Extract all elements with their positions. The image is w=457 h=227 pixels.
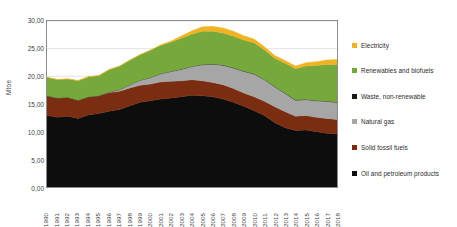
plot-area	[46, 20, 338, 188]
legend-item-label: Waste, non-renewable	[361, 93, 426, 100]
x-axis-tick-label: 1993	[73, 213, 80, 227]
x-axis-tick-label: 2011	[261, 213, 268, 227]
x-axis-tick-label: 1992	[63, 213, 70, 227]
x-axis-tick-label: 2004	[188, 213, 195, 227]
legend-swatch-icon	[352, 68, 357, 73]
chart-legend: ElectricityRenewables and biofuelsWaste,…	[352, 40, 457, 190]
y-axis-tick-label: 15,00	[8, 101, 44, 108]
x-axis-tick-label: 2007	[219, 213, 226, 227]
x-axis-tick-label: 2014	[292, 213, 299, 227]
y-axis-tick-label: 30,00	[8, 17, 44, 24]
legend-swatch-icon	[352, 171, 357, 176]
x-axis-tick-label: 2008	[230, 213, 237, 227]
legend-item[interactable]: Natural gas	[352, 117, 394, 127]
legend-swatch-icon	[352, 94, 357, 99]
legend-item-label: Oil and petroleum products	[361, 170, 439, 177]
y-axis-tick-label: 20,00	[8, 73, 44, 80]
plot-svg	[47, 21, 337, 187]
x-axis-tick-label: 2001	[157, 213, 164, 227]
y-axis-tick-labels: 30,0025,0020,0015,0010,005,000,00	[8, 0, 44, 227]
legend-item[interactable]: Oil and petroleum products	[352, 168, 439, 178]
x-axis-tick-label: 2006	[209, 213, 216, 227]
y-axis-tick-label: 5,00	[8, 157, 44, 164]
x-axis-tick-label: 2003	[178, 213, 185, 227]
legend-item[interactable]: Solid fossil fuels	[352, 142, 408, 152]
legend-item-label: Solid fossil fuels	[361, 144, 408, 151]
x-axis-tick-label: 2010	[251, 213, 258, 227]
legend-item-label: Renewables and biofuels	[361, 67, 434, 74]
x-axis-tick-label: 2005	[199, 213, 206, 227]
legend-item-label: Electricity	[361, 42, 389, 49]
legend-item[interactable]: Renewables and biofuels	[352, 66, 434, 76]
x-axis-tick-label: 1999	[136, 213, 143, 227]
x-axis-tick-label: 2018	[334, 213, 341, 227]
y-axis-tick-label: 25,00	[8, 45, 44, 52]
x-axis-tick-label: 1995	[94, 213, 101, 227]
x-axis-tick-label: 2017	[324, 213, 331, 227]
x-axis-tick-label: 1996	[105, 213, 112, 227]
x-axis-tick-labels: 1990199119921993199419951996199719981999…	[46, 190, 338, 227]
legend-item[interactable]: Waste, non-renewable	[352, 91, 426, 101]
x-axis-tick-label: 1998	[126, 213, 133, 227]
y-axis-tick-label: 10,00	[8, 129, 44, 136]
legend-swatch-icon	[352, 145, 357, 150]
legend-swatch-icon	[352, 43, 357, 48]
x-axis-tick-label: 2002	[167, 213, 174, 227]
y-axis-tick-label: 0,00	[8, 185, 44, 192]
x-axis-tick-label: 1990	[42, 213, 49, 227]
x-axis-tick-label: 1997	[115, 213, 122, 227]
legend-item-label: Natural gas	[361, 118, 394, 125]
x-axis-tick-label: 2013	[282, 213, 289, 227]
x-axis-tick-label: 2000	[146, 213, 153, 227]
legend-swatch-icon	[352, 119, 357, 124]
legend-item[interactable]: Electricity	[352, 40, 389, 50]
x-axis-tick-label: 1994	[84, 213, 91, 227]
x-axis-tick-label: 1991	[53, 213, 60, 227]
x-axis-tick-label: 2016	[313, 213, 320, 227]
stacked-area-chart: Mtoe 30,0025,0020,0015,0010,005,000,00 1…	[0, 0, 457, 227]
x-axis-tick-label: 2015	[303, 213, 310, 227]
x-axis-tick-label: 2009	[240, 213, 247, 227]
x-axis-tick-label: 2012	[272, 213, 279, 227]
